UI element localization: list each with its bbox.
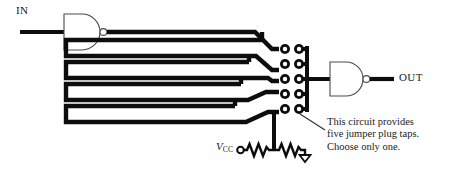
annotation-line-3: Choose only one.	[327, 141, 419, 153]
vcc-label: VCC	[216, 140, 233, 154]
annotation-note: This circuit provides five jumper plug t…	[327, 116, 419, 153]
output-label: OUT	[399, 71, 423, 83]
output-gate-bubble	[363, 76, 370, 83]
input-label: IN	[16, 4, 28, 16]
jumper-tap-pad-array[interactable]	[280, 44, 304, 114]
vcc-label-main: V	[216, 140, 223, 152]
output-gate	[330, 62, 370, 96]
input-gate	[64, 14, 107, 50]
ground-arrow-icon	[300, 155, 311, 162]
serpentine-delay-line	[66, 32, 279, 122]
resistor-pullup	[244, 144, 274, 156]
annotation-line-1: This circuit provides	[327, 116, 419, 128]
annotation-line-2: five jumper plug taps.	[327, 128, 419, 140]
input-gate-bubble	[100, 29, 107, 36]
vcc-terminal	[237, 147, 244, 154]
vcc-label-subscript: CC	[223, 145, 233, 154]
annotation-leader-line	[300, 114, 325, 130]
output-bus-bar	[303, 46, 330, 112]
